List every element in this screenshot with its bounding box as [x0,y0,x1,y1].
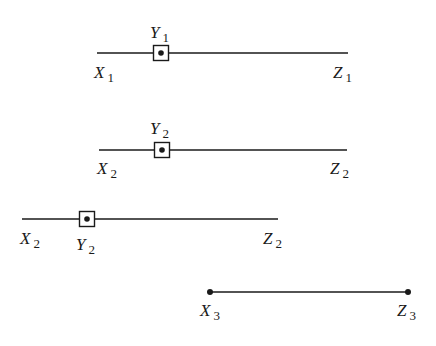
y-label: Y2 [76,235,95,257]
z-label: Z1 [333,63,352,85]
y-label: Y1 [150,23,169,45]
z-endpoint-dot [405,289,411,295]
x-label: X1 [93,63,114,85]
y-label: Y2 [150,119,169,141]
z-label: Z2 [263,229,282,251]
z-label: Z2 [330,159,349,181]
segment-row2: X2Y2Z2 [96,119,349,181]
x-label: X2 [96,159,117,181]
y-boxed-dot-marker [155,143,170,158]
segment-row3: X2Y2Z2 [19,212,282,258]
z-label: Z3 [397,301,416,323]
y-boxed-dot-marker [80,212,95,227]
segment-row1: X1Y1Z1 [93,23,352,85]
x-label: X3 [199,301,220,323]
x-label: X2 [19,229,40,251]
diagram-canvas: X1Y1Z1X2Y2Z2X2Y2Z2X3Z3 [0,0,436,346]
x-endpoint-dot [207,289,213,295]
y-boxed-dot-marker [154,46,169,61]
segment-row4: X3Z3 [199,289,416,323]
